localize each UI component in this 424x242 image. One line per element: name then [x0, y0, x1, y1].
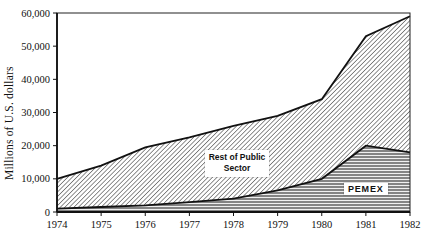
y-tick-label: 10,000 [21, 173, 50, 184]
rest-of-public-sector-label: Rest of Public Sector [205, 150, 269, 177]
y-tick-label: 40,000 [21, 74, 50, 85]
pemex-label: PEMEX [344, 183, 388, 195]
x-tick-label: 1982 [400, 219, 421, 230]
x-tick-label: 1978 [223, 219, 244, 230]
y-tick-label: 0 [45, 207, 50, 218]
x-tick-label: 1980 [311, 219, 332, 230]
y-tick-label: 20,000 [21, 140, 50, 151]
x-tick-label: 1981 [355, 219, 376, 230]
y-tick-label: 30,000 [21, 107, 50, 118]
y-tick-label: 50,000 [21, 41, 50, 52]
plot-area: 010,00020,00030,00040,00050,00060,000197… [0, 0, 424, 242]
x-tick-label: 1975 [91, 219, 112, 230]
x-tick-label: 1974 [47, 219, 69, 230]
stacked-area-chart: Millions of U.S. dollars 010,00020,00030… [0, 0, 424, 242]
x-tick-label: 1977 [179, 219, 200, 230]
x-tick-label: 1976 [135, 219, 156, 230]
y-tick-label: 60,000 [21, 8, 50, 19]
x-tick-label: 1979 [267, 219, 288, 230]
